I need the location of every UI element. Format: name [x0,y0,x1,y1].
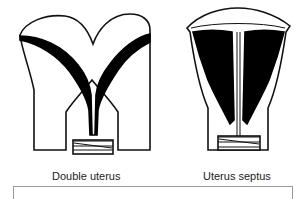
caption-box [13,186,293,199]
uterus-septus-drawing [187,8,290,150]
uterus-septus-label: Uterus septus [203,170,271,182]
double-uterus-drawing [20,14,150,154]
double-uterus-label: Double uterus [52,170,121,182]
